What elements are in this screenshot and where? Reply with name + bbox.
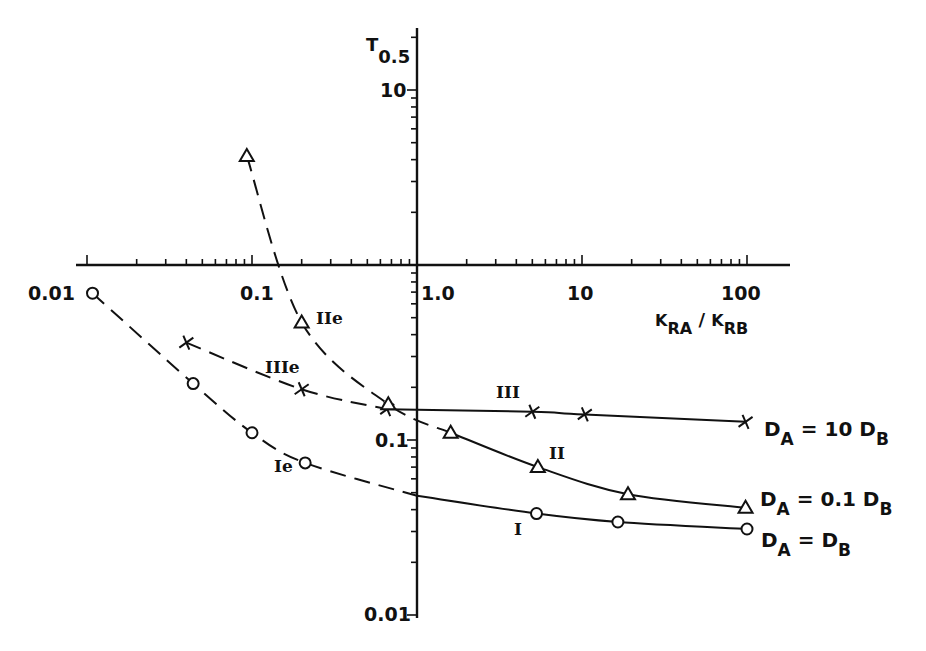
y-axis-label-main: T xyxy=(366,34,379,55)
markers xyxy=(87,149,753,535)
series-2-dashed-line xyxy=(93,293,417,496)
series-2-point-7 xyxy=(742,524,753,535)
circle-marker-icon xyxy=(742,524,753,535)
y-axis-label: T0.5 xyxy=(366,34,410,67)
chart: 0.01 0.1 1.0 10 100 10 0.1 0.01 T0.5 KRA… xyxy=(0,0,926,651)
curve-label-II: II xyxy=(549,443,565,463)
legend-label-0.1DB: DA = 0.1 DB xyxy=(760,487,892,519)
legend-1-sub1: A xyxy=(777,499,791,519)
x-tick-label-0.01: 0.01 xyxy=(28,282,75,304)
series-2-point-3 xyxy=(300,457,311,468)
circle-marker-icon xyxy=(247,427,258,438)
series-2-point-5 xyxy=(531,508,542,519)
series-2-point-6 xyxy=(612,516,623,527)
x-tick-label-0.1: 0.1 xyxy=(240,282,274,304)
series-1-point-1 xyxy=(295,315,309,327)
series-2-solid-line xyxy=(417,496,747,529)
y-axis-label-sub: 0.5 xyxy=(378,46,410,67)
triangle-marker-icon xyxy=(381,397,395,409)
x-axis-label-k2: K xyxy=(711,311,724,330)
circle-marker-icon xyxy=(531,508,542,519)
legend-1-pre: D xyxy=(760,487,777,511)
x-axis-label: KRA / KRB xyxy=(655,309,748,338)
series-1-point-0 xyxy=(240,149,254,161)
series-0-point-0 xyxy=(179,336,193,350)
curve-label-I: I xyxy=(514,519,522,539)
curve-label-IIIe: IIIe xyxy=(265,357,300,377)
legend-2-mid: = D xyxy=(791,528,838,552)
legend-0-mid: = 10 D xyxy=(794,417,876,441)
series-2-point-1 xyxy=(188,378,199,389)
x-tick-label-10: 10 xyxy=(567,282,593,304)
curve-label-IIe: IIe xyxy=(316,308,343,328)
series-2-point-0 xyxy=(87,288,98,299)
series-0-solid-line xyxy=(387,409,745,422)
legend-1-sub2: B xyxy=(879,499,892,519)
legend-2-sub2: B xyxy=(838,540,851,560)
x-axis-label-sub1: RA xyxy=(667,319,692,338)
legend-label-DB: DA = DB xyxy=(761,528,851,560)
legend-2-pre: D xyxy=(761,528,778,552)
triangle-marker-icon xyxy=(295,315,309,327)
series-0-point-1 xyxy=(295,382,309,396)
legend-1-mid: = 0.1 D xyxy=(790,487,880,511)
legend-label-10DB: DA = 10 DB xyxy=(764,417,889,449)
x-axis-label-sep: / xyxy=(692,309,711,330)
legend-0-pre: D xyxy=(764,417,781,441)
x-tick-label-1.0: 1.0 xyxy=(421,282,455,304)
series-1-point-2 xyxy=(381,397,395,409)
curve-label-III: III xyxy=(496,382,520,402)
circle-marker-icon xyxy=(188,378,199,389)
series-1-solid-line xyxy=(451,433,746,508)
legend-2-sub1: A xyxy=(778,540,792,560)
circle-marker-icon xyxy=(87,288,98,299)
curve-label-Ie: Ie xyxy=(274,456,293,476)
legend-0-sub2: B xyxy=(876,429,889,449)
legend-0-sub1: A xyxy=(781,429,795,449)
curves xyxy=(93,156,747,529)
triangle-marker-icon xyxy=(240,149,254,161)
x-tick-label-100: 100 xyxy=(721,282,761,304)
circle-marker-icon xyxy=(612,516,623,527)
y-tick-label-10: 10 xyxy=(380,79,406,101)
y-tick-label-0.01: 0.01 xyxy=(364,603,411,625)
x-axis-label-k1: K xyxy=(655,311,668,330)
circle-marker-icon xyxy=(300,457,311,468)
x-axis-label-sub2: RB xyxy=(724,319,749,338)
series-2-point-2 xyxy=(247,427,258,438)
y-tick-label-0.1: 0.1 xyxy=(375,429,409,451)
